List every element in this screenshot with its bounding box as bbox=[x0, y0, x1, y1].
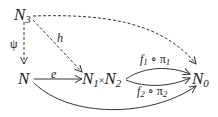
arrow-h bbox=[33, 20, 82, 72]
label-h: h bbox=[57, 32, 63, 44]
node-n: N bbox=[18, 70, 29, 87]
label-psi: ψ bbox=[10, 38, 18, 50]
node-n0: N0 bbox=[192, 70, 209, 89]
diagram-arrows bbox=[0, 0, 218, 117]
label-f1-pi1: f1 ∘ π1 bbox=[140, 53, 170, 67]
node-n1-times-n2: N1×N2 bbox=[82, 70, 121, 89]
arrow-f1-pi1 bbox=[126, 69, 190, 79]
label-f2-pi2: f2 ∘ π2 bbox=[137, 85, 167, 99]
commutative-diagram: N3 N N1×N2 N0 ψ h e f1 ∘ π1 f2 ∘ π2 bbox=[0, 0, 218, 117]
label-e: e bbox=[51, 68, 56, 80]
node-n3: N3 bbox=[14, 6, 31, 25]
